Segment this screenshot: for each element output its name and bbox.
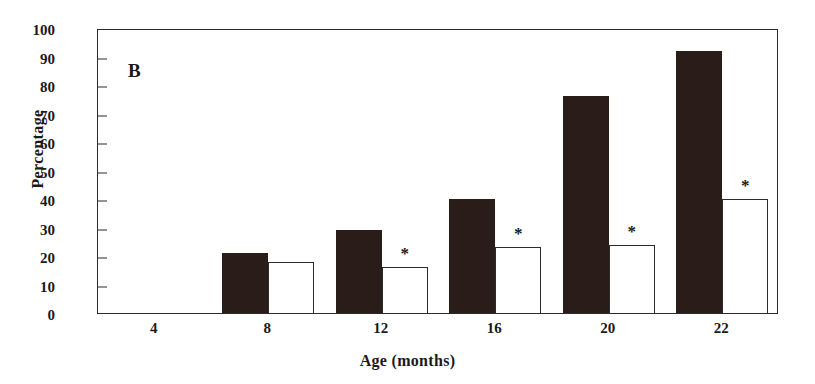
y-axis-tick-mark	[98, 115, 107, 116]
bar-filled-8	[222, 253, 268, 313]
panel-letter: B	[128, 60, 141, 82]
bar-open-22	[722, 199, 768, 313]
x-axis-tick-label-22: 22	[714, 320, 729, 337]
bar-open-12	[382, 267, 428, 313]
y-axis-tick-label: 0	[15, 308, 55, 323]
x-axis-tick-label-8: 8	[264, 320, 272, 337]
y-axis-tick-mark	[98, 201, 107, 202]
y-axis-tick-label: 100	[15, 23, 55, 38]
bar-open-8	[268, 262, 314, 313]
y-axis-tick-label: 70	[15, 108, 55, 123]
x-axis-tick-label-20: 20	[600, 320, 615, 337]
y-axis-tick-label: 10	[15, 279, 55, 294]
bar-filled-12	[336, 230, 382, 313]
y-axis-tick-mark	[98, 229, 107, 230]
bar-filled-16	[449, 199, 495, 313]
x-axis-tick-label-16: 16	[487, 320, 502, 337]
significance-asterisk-12: *	[401, 245, 410, 262]
y-axis-tick-mark	[98, 286, 107, 287]
y-axis-tick-label: 30	[15, 222, 55, 237]
x-axis-title: Age (months)	[0, 352, 815, 370]
y-axis-tick-label: 90	[15, 51, 55, 66]
bar-filled-20	[563, 96, 609, 313]
y-axis-tick-label: 50	[15, 165, 55, 180]
y-axis-tick-mark	[98, 144, 107, 145]
bar-open-20	[609, 245, 655, 313]
y-axis-tick-mark	[98, 172, 107, 173]
bar-open-16	[495, 247, 541, 313]
significance-asterisk-20: *	[628, 223, 637, 240]
x-axis-tick-label-12: 12	[373, 320, 388, 337]
significance-asterisk-22: *	[741, 177, 750, 194]
y-axis-tick-mark	[98, 58, 107, 59]
x-axis-tick-label-4: 4	[150, 320, 158, 337]
y-axis-tick-label: 60	[15, 137, 55, 152]
y-axis-tick-label: 40	[15, 194, 55, 209]
y-axis-tick-label: 20	[15, 251, 55, 266]
figure-panel-b: Percentage B 0102030405060708090100**** …	[0, 0, 815, 384]
significance-asterisk-16: *	[514, 225, 523, 242]
y-axis-tick-label: 80	[15, 80, 55, 95]
plot-area: B 0102030405060708090100****	[97, 29, 778, 314]
bar-filled-22	[676, 51, 722, 313]
y-axis-tick-mark	[98, 258, 107, 259]
y-axis-tick-mark	[98, 87, 107, 88]
